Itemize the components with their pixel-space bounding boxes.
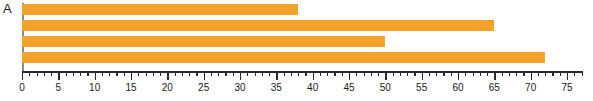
x-tick-minor (487, 71, 488, 76)
x-tick-minor (342, 71, 343, 76)
x-tick-minor (153, 71, 154, 76)
x-tick-major (531, 71, 532, 80)
x-tick-minor (480, 71, 481, 76)
x-tick-minor (443, 71, 444, 76)
x-tick-label: 5 (56, 83, 62, 93)
x-tick-minor (305, 71, 306, 76)
bar-3 (22, 36, 385, 47)
x-tick-major (567, 71, 568, 80)
x-tick-major (240, 71, 241, 80)
x-tick-major (458, 71, 459, 80)
x-tick-minor (211, 71, 212, 76)
x-tick-minor (196, 71, 197, 76)
x-tick-label: 45 (343, 83, 354, 93)
x-tick-major (58, 71, 59, 80)
x-tick-label: 55 (416, 83, 427, 93)
bar-4 (22, 52, 545, 63)
x-tick-minor (378, 71, 379, 76)
x-tick-label: 70 (525, 83, 536, 93)
x-tick-minor (291, 71, 292, 76)
x-tick-label: 0 (19, 83, 25, 93)
x-tick-major (95, 71, 96, 80)
x-tick-minor (66, 71, 67, 76)
x-tick-minor (451, 71, 452, 76)
x-tick-minor (400, 71, 401, 76)
x-tick-major (494, 71, 495, 80)
bar-1 (22, 4, 298, 15)
x-tick-major (422, 71, 423, 80)
x-tick-major (385, 71, 386, 80)
x-tick-minor (582, 71, 583, 76)
x-tick-minor (218, 71, 219, 76)
x-tick-minor (465, 71, 466, 76)
x-tick-minor (80, 71, 81, 76)
x-tick-minor (364, 71, 365, 76)
x-tick-minor (189, 71, 190, 76)
x-tick-major (276, 71, 277, 80)
x-tick-minor (436, 71, 437, 76)
x-tick-minor (73, 71, 74, 76)
x-tick-label: 75 (561, 83, 572, 93)
x-tick-minor (175, 71, 176, 76)
x-tick-minor (356, 71, 357, 76)
x-tick-minor (502, 71, 503, 76)
bar-chart-figure: A 051015202530354045505560657075 (0, 0, 593, 101)
x-tick-major (313, 71, 314, 80)
bar-2 (22, 20, 494, 31)
x-tick-minor (146, 71, 147, 76)
x-tick-label: 15 (125, 83, 136, 93)
x-tick-minor (414, 71, 415, 76)
x-tick-minor (109, 71, 110, 76)
x-tick-minor (523, 71, 524, 76)
x-tick-minor (327, 71, 328, 76)
x-tick-minor (473, 71, 474, 76)
x-tick-major (131, 71, 132, 80)
x-tick-minor (298, 71, 299, 76)
x-tick-major (204, 71, 205, 80)
x-tick-minor (393, 71, 394, 76)
x-tick-minor (225, 71, 226, 76)
x-tick-minor (116, 71, 117, 76)
x-tick-minor (284, 71, 285, 76)
x-tick-minor (233, 71, 234, 76)
x-tick-minor (102, 71, 103, 76)
x-tick-minor (545, 71, 546, 76)
x-tick-label: 50 (380, 83, 391, 93)
x-tick-minor (160, 71, 161, 76)
panel-label: A (3, 2, 12, 15)
x-tick-label: 10 (89, 83, 100, 93)
x-tick-minor (37, 71, 38, 76)
x-tick-minor (407, 71, 408, 76)
x-tick-minor (371, 71, 372, 76)
x-tick-major (167, 71, 168, 80)
plot-area (22, 0, 593, 71)
x-tick-major (349, 71, 350, 80)
x-axis-line (22, 71, 582, 73)
x-tick-minor (509, 71, 510, 76)
x-tick-minor (87, 71, 88, 76)
x-tick-label: 20 (162, 83, 173, 93)
x-tick-minor (538, 71, 539, 76)
x-tick-minor (552, 71, 553, 76)
x-tick-minor (429, 71, 430, 76)
x-tick-label: 35 (271, 83, 282, 93)
x-tick-minor (124, 71, 125, 76)
x-tick-label: 65 (489, 83, 500, 93)
x-tick-minor (320, 71, 321, 76)
x-tick-label: 30 (234, 83, 245, 93)
x-axis: 051015202530354045505560657075 (22, 71, 593, 101)
x-tick-minor (262, 71, 263, 76)
x-tick-minor (51, 71, 52, 76)
x-tick-minor (516, 71, 517, 76)
x-tick-minor (247, 71, 248, 76)
x-tick-major (22, 71, 23, 80)
x-tick-minor (44, 71, 45, 76)
x-tick-minor (574, 71, 575, 76)
x-tick-minor (334, 71, 335, 76)
x-tick-minor (138, 71, 139, 76)
x-tick-label: 60 (452, 83, 463, 93)
x-tick-minor (560, 71, 561, 76)
x-tick-minor (29, 71, 30, 76)
x-tick-minor (255, 71, 256, 76)
x-tick-label: 40 (307, 83, 318, 93)
